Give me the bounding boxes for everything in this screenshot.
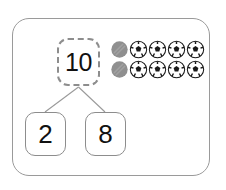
number-bond-part-box-right[interactable]: 8 <box>85 112 126 156</box>
number-bond-total-box[interactable]: 10 <box>57 38 100 86</box>
soccer-ball-counter-icon <box>148 60 167 79</box>
soccer-ball-counter-icon <box>129 40 148 59</box>
shaded-circle-counter-icon <box>110 60 129 79</box>
soccer-ball-counter-icon <box>186 60 205 79</box>
soccer-ball-counter-icon <box>148 40 167 59</box>
number-bond-worksheet: 10 2 8 <box>0 0 226 190</box>
counter-row <box>110 60 206 79</box>
counter-row <box>110 40 206 59</box>
soccer-ball-counter-icon <box>167 40 186 59</box>
soccer-ball-counter-icon <box>129 60 148 79</box>
soccer-ball-counter-icon <box>167 60 186 79</box>
counter-group <box>110 40 206 80</box>
number-bond-part-box-left[interactable]: 2 <box>25 112 66 156</box>
shaded-circle-counter-icon <box>110 40 129 59</box>
soccer-ball-counter-icon <box>186 40 205 59</box>
